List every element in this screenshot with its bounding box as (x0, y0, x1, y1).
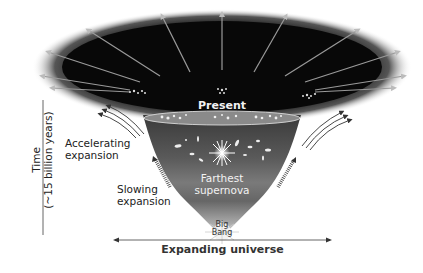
big-line2: Bang (202, 229, 242, 237)
accelerating-expansion-label: Accelerating expansion (65, 137, 131, 161)
expanding-universe-diagram: Present Accelerating expansion Slowing e… (0, 0, 423, 273)
accelerating-line1: Accelerating (65, 137, 131, 149)
time-line2: (~15 billion years) (42, 100, 54, 220)
slowing-line1: Slowing (117, 183, 171, 195)
farthest-line2: supernova (182, 184, 262, 196)
expanding-universe-label: Expanding universe (160, 244, 285, 256)
big-bang-label: Big Bang (202, 221, 242, 237)
slowing-line2: expansion (117, 195, 171, 207)
time-axis-label: Time (~15 billion years) (30, 100, 54, 220)
accelerating-line2: expansion (65, 149, 131, 161)
slowing-expansion-label: Slowing expansion (117, 183, 171, 207)
present-label: Present (190, 99, 254, 112)
time-line1: Time (30, 100, 42, 220)
farthest-supernova-label: Farthest supernova (182, 172, 262, 196)
farthest-line1: Farthest (182, 172, 262, 184)
